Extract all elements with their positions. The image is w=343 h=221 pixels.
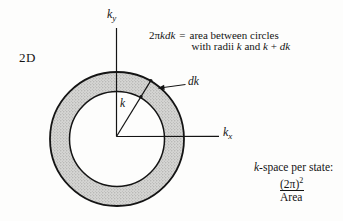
kspace-fraction: (2π)2 Area	[280, 175, 304, 203]
inner-radius-dot	[139, 95, 142, 98]
y-axis-label-sub: y	[112, 13, 116, 23]
equation-lhs: 2πkdk	[149, 30, 175, 41]
x-axis-label: kx	[223, 125, 232, 141]
equation-rhs: area between circles with radii k and k …	[190, 30, 291, 52]
equation-equals: =	[179, 30, 185, 41]
radius-k-label: k	[120, 97, 125, 109]
dimension-label: 2D	[19, 50, 36, 66]
y-axis-label: ky	[107, 7, 116, 23]
kspace-note-heading: k-space per state:	[254, 161, 333, 173]
x-axis-label-sub: x	[228, 131, 232, 141]
area-equation: 2πkdk = area between circles with radii …	[149, 30, 290, 52]
outer-radius-dot	[149, 79, 152, 82]
equation-rhs-line2: with radii k and k + dk	[190, 40, 291, 52]
kspace-2d-figure: 2D ky kx k dk 2πkdk = area between circl…	[0, 0, 343, 221]
dk-label: dk	[188, 75, 199, 87]
fraction-denominator: Area	[280, 191, 304, 203]
kspace-per-state-note: k-space per state: (2π)2 Area	[254, 161, 333, 203]
fraction-numerator: (2π)2	[280, 175, 304, 191]
